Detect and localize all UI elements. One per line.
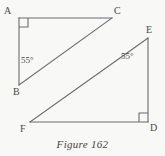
vertex-label-B: B [13, 87, 20, 97]
vertex-label-C: C [114, 6, 121, 16]
vertex-label-E: E [146, 25, 152, 35]
triangle-ABC-shape [19, 18, 112, 85]
figure-container: A C B E D F 55° 55° Figure 162 [0, 0, 165, 156]
figure-caption: Figure 162 [0, 138, 165, 150]
vertex-label-F: F [20, 124, 26, 134]
angle-label-B: 55° [21, 56, 34, 65]
vertex-label-A: A [4, 6, 11, 16]
segment-BC [19, 18, 112, 85]
right-angle-marker-A [19, 18, 28, 27]
right-angle-marker-D [139, 113, 148, 122]
vertex-label-D: D [150, 123, 157, 133]
angle-label-E: 55° [121, 52, 134, 61]
